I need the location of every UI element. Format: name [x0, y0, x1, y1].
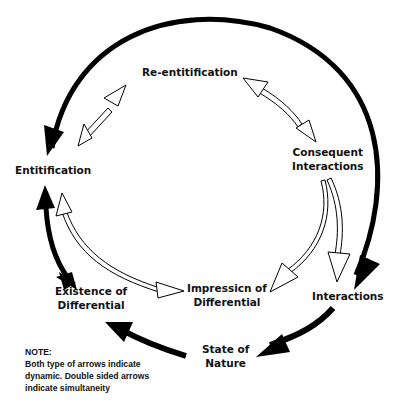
node-impression-of-differential: Impressicn of Differential [187, 281, 267, 309]
outer-arc-head-left [44, 125, 64, 156]
node-re-entitification: Re-entitification [142, 65, 238, 79]
node-entitification: Entitification [15, 163, 91, 177]
consequent-interactions-arrow [327, 178, 342, 255]
outer-arc-head-right [354, 255, 380, 290]
reentitification-consequent-arrow [258, 88, 302, 127]
diagram-canvas: Re-entitification Consequent Interaction… [0, 0, 403, 405]
entitification-impression-arrow [62, 210, 160, 292]
node-consequent-interactions: Consequent Interactions [292, 145, 364, 173]
node-existence-of-differential: Existence of Differential [55, 284, 127, 312]
node-interactions: Interactions [312, 289, 384, 303]
legend-note: NOTE: Both type of arrows indicate dynam… [25, 346, 149, 394]
consequent-impression-arrow [287, 180, 328, 273]
node-state-of-nature: State of Nature [202, 342, 249, 370]
